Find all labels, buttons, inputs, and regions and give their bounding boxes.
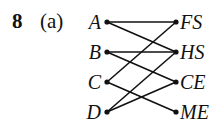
edge-D-HS <box>107 52 176 112</box>
node-CE <box>173 79 178 84</box>
node-label-D: D <box>86 101 102 123</box>
node-ME <box>173 109 178 114</box>
node-label-FS: FS <box>179 11 202 33</box>
node-B <box>104 49 109 54</box>
node-FS <box>173 19 178 24</box>
node-label-ME: ME <box>179 101 209 123</box>
node-label-B: B <box>89 41 101 63</box>
node-label-CE: CE <box>180 71 206 93</box>
node-label-HS: HS <box>179 41 204 63</box>
node-C <box>104 79 109 84</box>
node-A <box>104 19 109 24</box>
node-label-C: C <box>88 71 102 93</box>
node-HS <box>173 49 178 54</box>
node-label-A: A <box>87 11 102 33</box>
edge-B-CE <box>107 52 176 82</box>
bipartite-graph: ABCDFSHSCEME <box>0 0 224 123</box>
edge-A-HS <box>107 22 176 52</box>
node-D <box>104 109 109 114</box>
